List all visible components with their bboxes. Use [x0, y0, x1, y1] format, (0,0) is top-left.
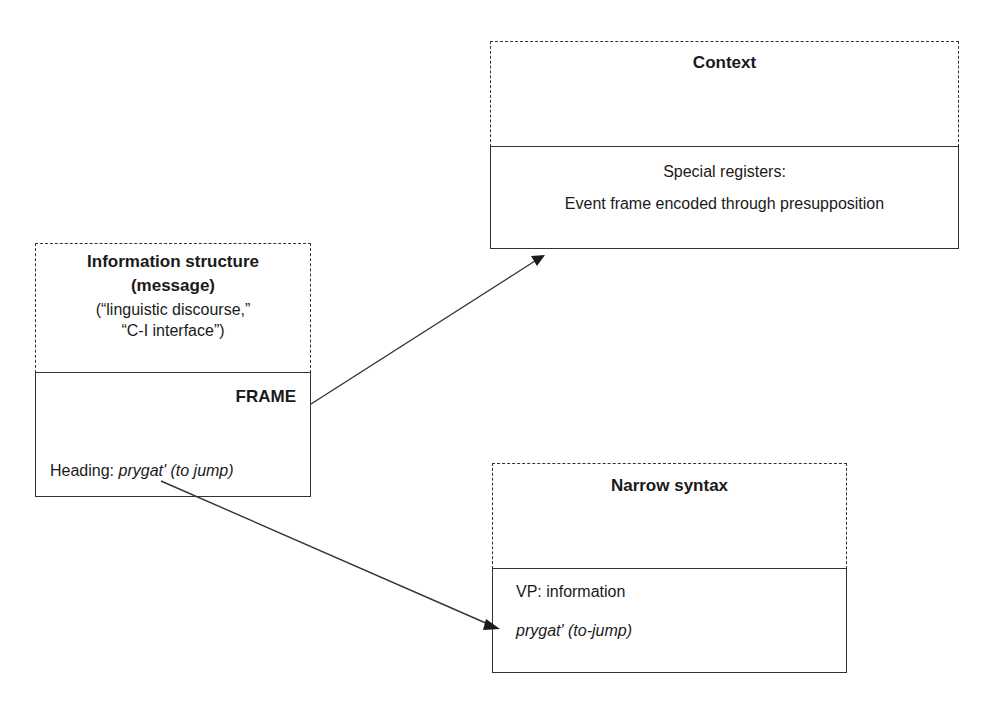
arrows-layer — [0, 0, 985, 702]
arrow-heading-to-syntax — [161, 481, 500, 630]
arrow-frame-to-context — [311, 255, 545, 404]
